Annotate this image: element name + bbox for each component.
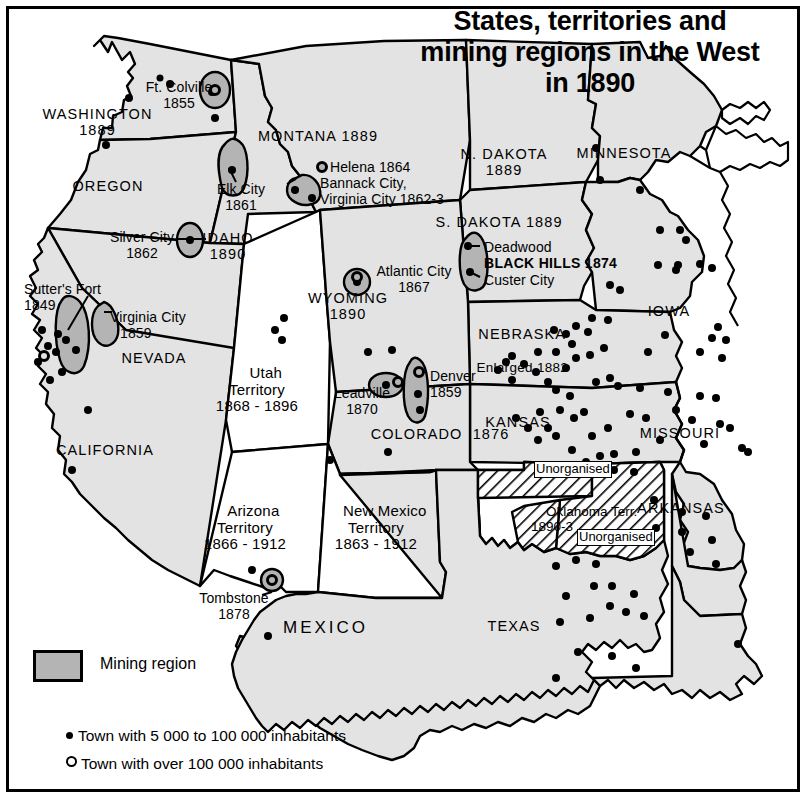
- state-label-s-dakota: S. DAKOTA 1889: [424, 214, 574, 230]
- state-label-n-dakota: N. DAKOTA1889: [450, 146, 558, 178]
- town-label-helena: Helena 1864: [330, 160, 411, 176]
- page-title: States, territories and mining regions i…: [390, 6, 790, 99]
- map-screenshot: States, territories and mining regions i…: [0, 0, 806, 798]
- state-shape-iowa: [582, 178, 704, 312]
- legend-town-large: Town with over 100 000 inhabitants: [66, 755, 323, 773]
- town-label-elk-city: Elk City1861: [208, 182, 274, 213]
- town-label-bannack-virginia: Bannack City,Virginia City 1862-3: [320, 176, 444, 207]
- unorganised-label-north: Unorganised: [534, 461, 612, 478]
- title-line-1: States, territories and: [390, 6, 790, 37]
- town-label-black-hills: BLACK HILLS 1874: [484, 256, 617, 272]
- town-large-dot-icon: [66, 756, 77, 767]
- territory-label-utah: UtahTerritory1868 - 1896: [196, 348, 318, 432]
- town-label-sutters-fort: Sutter's Fort1849: [24, 282, 101, 313]
- town-label-atlantic-city: Atlantic City1867: [368, 264, 460, 295]
- legend-mining-swatch: [33, 650, 83, 682]
- state-label-oregon: OREGON: [58, 178, 158, 194]
- state-label-california: CALIFORNIA: [44, 442, 166, 458]
- town-label-deadwood: Deadwood: [484, 240, 552, 256]
- town-small-dot-icon: [66, 732, 73, 739]
- state-label-kansas: KANSAS: [474, 414, 562, 430]
- town-label-ft-colville: Ft. Colville1855: [140, 80, 218, 111]
- territory-label-new-mexico: New MexicoTerritory1863 - 1912: [310, 486, 442, 570]
- state-label-texas: TEXAS: [472, 618, 556, 634]
- nebraska-note: Enlarged 1882: [476, 360, 568, 375]
- town-label-virginia-city-nv: Virginia City1859: [110, 310, 186, 341]
- state-label-arkansas: ARKANSAS: [626, 500, 736, 516]
- town-label-leadville: Leadville1870: [324, 386, 400, 417]
- title-line-3: in 1890: [390, 68, 790, 99]
- town-label-denver: Denver1859: [430, 369, 476, 400]
- state-label-montana: MONTANA 1889: [245, 128, 391, 144]
- legend-town-small: Town with 5 000 to 100 000 inhabitants: [66, 727, 346, 745]
- state-label-minnesota: MINNESOTA: [566, 145, 682, 161]
- town-label-custer-city: Custer City: [484, 273, 554, 289]
- state-label-idaho: IDAHO1890: [186, 230, 270, 262]
- town-label-tombstone: Tombstone1878: [190, 591, 278, 622]
- town-label-silver-city: Silver City1862: [102, 230, 182, 261]
- country-label-mexico: MEXICO: [283, 618, 368, 637]
- territory-label-arizona: ArizonaTerritory1866 - 1912: [182, 486, 308, 570]
- legend-mining-label: Mining region: [100, 655, 196, 673]
- state-label-nevada: NEVADA: [108, 350, 200, 366]
- title-line-2: mining regions in the West: [390, 37, 790, 68]
- oklahoma-territory-label: Oklahoma Terr.1890-3: [531, 489, 637, 549]
- state-label-iowa: IOWA: [638, 303, 700, 319]
- state-label-missouri: MISSOURI: [628, 425, 732, 441]
